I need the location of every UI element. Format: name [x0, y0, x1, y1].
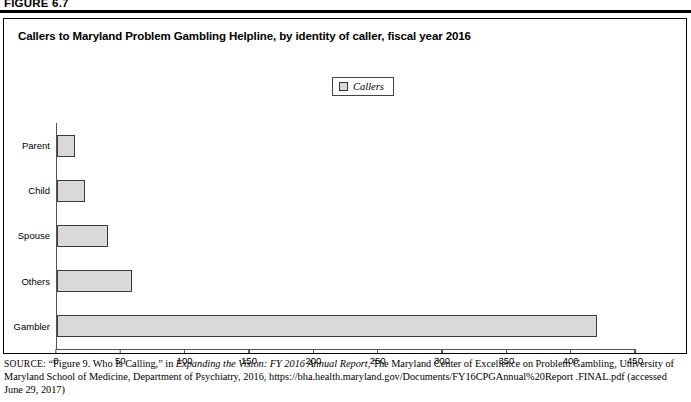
x-tick-mark	[248, 349, 249, 353]
bar-row: Spouse	[57, 213, 636, 258]
figure-container: Callers to Maryland Problem Gambling Hel…	[3, 18, 687, 354]
legend-label-callers: Callers	[353, 81, 384, 92]
bar-group: ParentChildSpouseOthersGambler	[57, 123, 636, 349]
x-tick-mark	[506, 349, 507, 353]
bar-row: Parent	[57, 123, 636, 168]
x-tick-mark	[55, 349, 56, 353]
source-text-part1: “Figure 9. Who Is Calling,” in	[46, 358, 176, 369]
bar-parent	[57, 135, 75, 157]
x-tick-mark	[441, 349, 442, 353]
bar-row: Gambler	[57, 304, 636, 349]
bar-spouse	[57, 225, 108, 247]
x-tick-mark	[120, 349, 121, 353]
category-label-parent: Parent	[22, 140, 57, 151]
source-report-title: Expanding the Vision: FY 2016 Annual Rep…	[176, 358, 368, 369]
category-label-others: Others	[21, 276, 57, 287]
x-tick-mark	[313, 349, 314, 353]
x-tick-mark	[184, 349, 185, 353]
chart-title: Callers to Maryland Problem Gambling Hel…	[18, 30, 471, 42]
bar-child	[57, 180, 85, 202]
x-tick-mark	[570, 349, 571, 353]
chart-legend: Callers	[332, 77, 394, 96]
category-label-gambler: Gambler	[14, 321, 57, 332]
plot-area: ParentChildSpouseOthersGambler 050100150…	[56, 123, 636, 349]
legend-swatch-callers	[339, 82, 348, 91]
figure-header-rule	[0, 10, 691, 13]
figure-label: FIGURE 6.7	[4, 0, 69, 9]
x-tick-mark	[377, 349, 378, 353]
source-prefix: SOURCE:	[4, 358, 46, 369]
source-note: SOURCE: “Figure 9. Who Is Calling,” in E…	[4, 357, 688, 397]
category-label-spouse: Spouse	[18, 230, 57, 241]
x-tick-mark	[634, 349, 635, 353]
bar-row: Others	[57, 259, 636, 304]
category-label-child: Child	[28, 185, 57, 196]
bar-row: Child	[57, 168, 636, 213]
bar-others	[57, 270, 132, 292]
bar-gambler	[57, 315, 597, 337]
